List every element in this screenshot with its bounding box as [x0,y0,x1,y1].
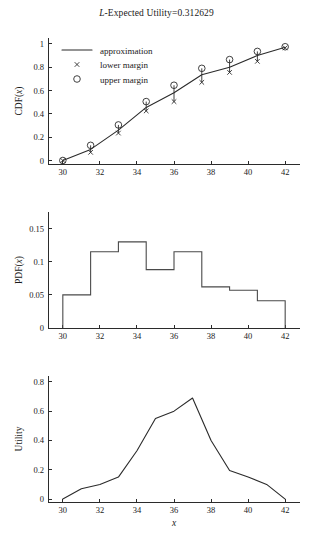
x-tick-label: 40 [244,331,253,341]
x-tick-label: 32 [96,167,105,177]
legend-label-upper-margin: upper margin [100,75,149,85]
legend-x-swatch [75,62,80,67]
x-tick-label: 38 [207,505,216,515]
y-tick-label: 0 [40,156,44,166]
y-axis-label: PDF(x) [14,256,25,284]
cdf-plot-panel: 3032343638404200.20.40.60.81CDF(x) appro… [0,24,313,189]
x-tick-label: 42 [281,505,290,515]
x-tick-label: 34 [133,167,142,177]
legend-label-lower-margin: lower margin [100,60,149,70]
x-tick-label: 30 [59,331,68,341]
x-tick-label: 34 [133,331,142,341]
x-tick-label: 42 [281,331,290,341]
y-tick-label: 0.2 [33,465,44,475]
y-axis-label: Utility [14,426,24,451]
x-tick-label: 30 [59,167,68,177]
x-tick-label: 36 [170,505,179,515]
x-tick-label: 40 [244,505,253,515]
x-tick-label: 34 [133,505,142,515]
y-tick-label: 1 [40,39,44,49]
x-tick-label: 36 [170,167,179,177]
y-tick-label: 0.4 [33,435,44,445]
pdf-plot-panel: 3032343638404200.050.10.15PDF(x) [0,198,313,353]
y-tick-label: 0.4 [33,109,44,119]
y-tick-label: 0.8 [33,62,44,72]
figure-title: L-Expected Utility=0.312629 [0,8,313,18]
utility-plot-panel: 3032343638404200.20.40.60.8Utilityx [0,362,313,547]
pdf-histogram-outline [63,242,285,328]
y-axis-label: CDF(x) [14,86,25,115]
y-tick-label: 0.15 [29,224,44,234]
x-tick-label: 32 [96,331,105,341]
figure-title-rest: -Expected Utility=0.312629 [105,8,214,18]
pdf-axes: 3032343638404200.050.10.15PDF(x) [14,212,300,341]
y-tick-label: 0.1 [33,257,44,267]
pdf-svg: 3032343638404200.050.10.15PDF(x) [0,198,313,353]
cdf-legend: approximationlower marginupper margin [62,46,153,85]
x-tick-label: 38 [207,331,216,341]
utility-curve [63,398,285,499]
x-tick-label: 30 [59,505,68,515]
x-tick-label: 38 [207,167,216,177]
approximation-line [63,47,285,160]
x-tick-label: 40 [244,167,253,177]
y-tick-label: 0.6 [33,86,44,96]
x-tick-label: 32 [96,505,105,515]
x-tick-label: 42 [281,167,290,177]
x-tick-label: 36 [170,331,179,341]
cdf-svg: 3032343638404200.20.40.60.81CDF(x) appro… [0,24,313,189]
y-tick-label: 0.8 [33,377,44,387]
upper-margin-marker [282,43,289,50]
y-tick-label: 0.2 [33,132,44,142]
cdf-data-layer [60,43,289,163]
legend-label-approximation: approximation [100,46,153,56]
utility-data-layer [63,398,285,499]
utility-axes: 3032343638404200.20.40.60.8Utilityx [14,376,300,528]
y-tick-label: 0 [40,494,44,504]
utility-svg: 3032343638404200.20.40.60.8Utilityx [0,362,313,547]
legend-circle-swatch [74,76,81,83]
y-tick-label: 0 [40,323,44,333]
y-tick-label: 0.05 [29,290,44,300]
y-tick-label: 0.6 [33,406,44,416]
pdf-data-layer [63,242,285,328]
x-axis-label: x [171,518,177,528]
figure-container: L-Expected Utility=0.312629 303234363840… [0,0,313,547]
